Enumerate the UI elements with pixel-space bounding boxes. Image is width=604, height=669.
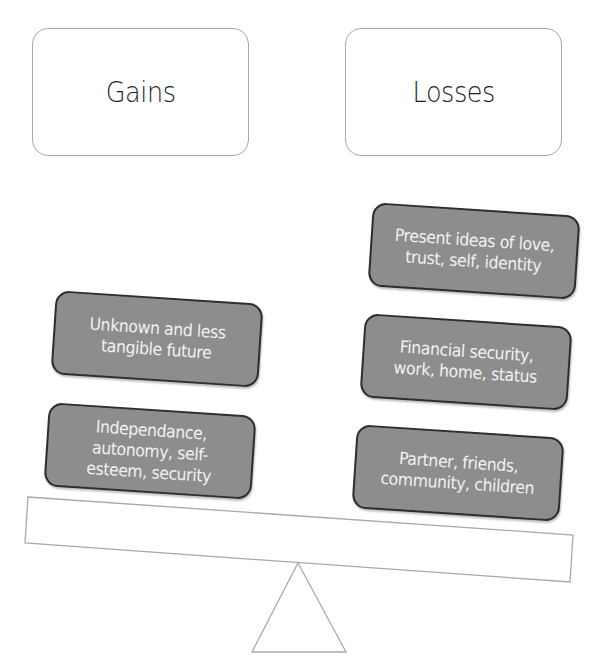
gain-box-label: Unknown and less tangible future — [62, 312, 252, 366]
loss-box-label: Financial security, work, home, status — [371, 335, 561, 389]
gains-header-label: Gains — [106, 75, 176, 109]
gain-box-independence: Independance, autonomy, self-esteem, sec… — [43, 402, 256, 500]
losses-header-label: Losses — [412, 75, 494, 109]
loss-box-label: Partner, friends, community, children — [363, 446, 553, 500]
gain-box-label: Independance, autonomy, self-esteem, sec… — [54, 413, 245, 488]
gains-header-box: Gains — [32, 28, 249, 156]
loss-box-partner-friends: Partner, friends, community, children — [351, 424, 564, 522]
gain-box-unknown-future: Unknown and less tangible future — [50, 290, 263, 388]
loss-box-financial-security: Financial security, work, home, status — [359, 313, 572, 411]
loss-box-label: Present ideas of love, trust, self, iden… — [379, 224, 569, 278]
fulcrum-triangle — [252, 563, 346, 652]
losses-header-box: Losses — [345, 28, 562, 156]
loss-box-present-ideas: Present ideas of love, trust, self, iden… — [367, 202, 580, 300]
